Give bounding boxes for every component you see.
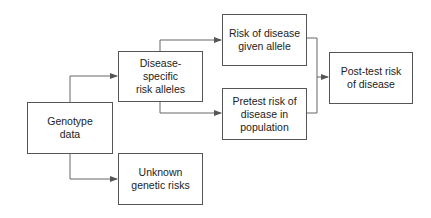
node-genotype-data: Genotype data: [27, 102, 113, 154]
node-unknown-genetic-risks: Unknown genetic risks: [118, 153, 203, 205]
edge-disease-specific-to-pretest: [160, 101, 221, 113]
node-post-test-risk: Post-test risk of disease: [329, 52, 413, 104]
node-pretest-risk: Pretest risk of disease in population: [222, 88, 307, 140]
node-label: Pretest risk of disease in population: [232, 95, 296, 134]
edge-risk-to-bus: [306, 38, 317, 113]
edge-disease-specific-to-risk: [160, 40, 221, 51]
node-risk-given-allele: Risk of disease given allele: [222, 14, 307, 66]
node-label: Risk of disease given allele: [229, 27, 300, 53]
edge-genotype-to-unknown: [70, 153, 117, 179]
node-label: Genotype data: [47, 115, 93, 141]
edge-genotype-to-disease-specific: [70, 76, 117, 102]
node-disease-specific-risk-alleles: Disease-specific risk alleles: [118, 51, 203, 102]
node-label: Post-test risk of disease: [341, 65, 402, 91]
node-label: Disease-specific risk alleles: [123, 57, 198, 96]
node-label: Unknown genetic risks: [131, 166, 189, 192]
flow-diagram: Genotype data Disease-specific risk alle…: [0, 0, 431, 218]
